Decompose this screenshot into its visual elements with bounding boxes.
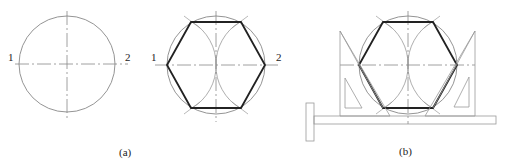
caption-a: (a) xyxy=(119,147,131,158)
construction-diagram xyxy=(0,0,507,163)
point-label-2-hex: 2 xyxy=(276,52,282,63)
panel-hexagon-arcs xyxy=(155,11,278,122)
panel-b-tsquare xyxy=(306,11,496,141)
point-label-2-a: 2 xyxy=(125,52,131,63)
point-label-1-hex: 1 xyxy=(151,52,157,63)
panel-a-circle xyxy=(15,11,128,119)
point-label-1-a: 1 xyxy=(8,52,14,63)
caption-b: (b) xyxy=(399,146,412,157)
